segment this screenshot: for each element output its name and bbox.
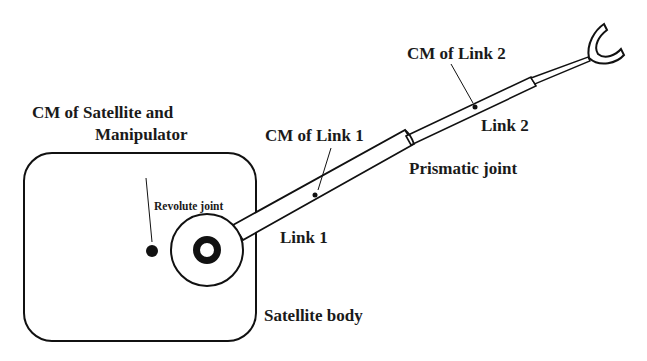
label-cm-link2: CM of Link 2 — [407, 44, 506, 63]
label-link2: Link 2 — [481, 116, 529, 135]
label-revolute-joint: Revolute joint — [154, 200, 223, 213]
diagram-svg: CM of Satellite and Manipulator Revolute… — [0, 0, 647, 361]
label-prismatic-joint: Prismatic joint — [409, 159, 517, 178]
cm-link1-dot — [313, 193, 318, 198]
cm-satellite-dot — [146, 245, 158, 257]
label-cm-satellite-line2: Manipulator — [95, 125, 188, 144]
cm-link2-dot — [473, 105, 478, 110]
revolute-joint-outer — [171, 214, 243, 286]
diagram-canvas: CM of Satellite and Manipulator Revolute… — [0, 0, 647, 361]
label-cm-satellite-line1: CM of Satellite and — [32, 103, 174, 122]
link-1 — [233, 130, 414, 240]
label-cm-link1: CM of Link 1 — [265, 126, 364, 145]
label-satellite-body: Satellite body — [264, 306, 363, 325]
cm-link2-leader — [451, 64, 473, 103]
wrist-rod — [531, 57, 590, 84]
label-link1: Link 1 — [280, 228, 328, 247]
gripper-icon — [588, 24, 624, 64]
